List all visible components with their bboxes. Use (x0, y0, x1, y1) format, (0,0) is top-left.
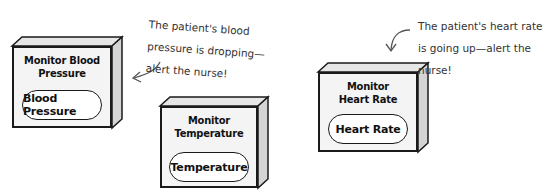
module-title-line: Monitor Blood (24, 54, 100, 67)
monitor-heart-rate-box: Monitor Heart Rate Heart Rate (318, 72, 418, 152)
annotation-line: The patient's heart rate (418, 21, 543, 32)
module-title-line: Monitor (175, 114, 244, 127)
heart-rate-annotation: The patient's heart rate is going up—ale… (418, 10, 543, 87)
annotation-line: The patient's blood (148, 19, 266, 38)
module-title: Monitor Heart Rate (339, 80, 397, 106)
module-title: Monitor Blood Pressure (24, 54, 100, 80)
monitor-temperature-box: Monitor Temperature Temperature (160, 106, 258, 188)
blood-pressure-annotation: The patient's blood pressure is dropping… (145, 8, 268, 93)
arrow-icon (386, 30, 410, 51)
monitor-blood-pressure-box: Monitor Blood Pressure Blood Pressure (12, 46, 112, 128)
diagram-canvas: Monitor Blood Pressure Blood Pressure Mo… (0, 0, 550, 196)
annotation-line: is going up—alert the (418, 43, 543, 54)
annotation-line: pressure is dropping— (147, 41, 265, 60)
annotation-line: alert the nurse! (145, 63, 263, 82)
module-title-line: Pressure (24, 67, 100, 80)
module-title: Monitor Temperature (175, 114, 244, 140)
heart-rate-component: Heart Rate (328, 114, 408, 144)
temperature-component: Temperature (169, 152, 249, 182)
blood-pressure-component: Blood Pressure (22, 90, 102, 120)
module-title-line: Heart Rate (339, 93, 397, 106)
annotation-line: nurse! (418, 65, 543, 76)
module-title-line: Temperature (175, 127, 244, 140)
module-title-line: Monitor (339, 80, 397, 93)
